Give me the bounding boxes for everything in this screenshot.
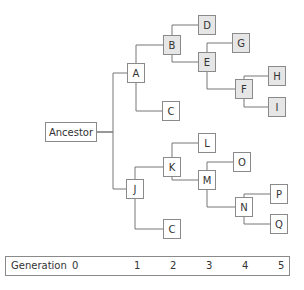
generation-axis: Generation 0 1 2 3 4 5 (5, 256, 290, 276)
node-c1: C (162, 101, 180, 121)
node-n: N (235, 197, 253, 217)
node-l: L (198, 133, 216, 153)
edge-e-g (207, 43, 232, 52)
node-m: M (198, 170, 216, 190)
node-f: F (235, 79, 253, 99)
node-o: O (233, 152, 251, 172)
generation-tick-0: 0 (72, 260, 78, 271)
node-d: D (198, 15, 216, 35)
edge-f-i (244, 99, 268, 107)
node-e: E (198, 52, 216, 72)
edge-ancestor-a (97, 73, 127, 132)
node-h: H (268, 66, 286, 86)
generation-axis-title: Generation (11, 260, 67, 271)
edge-b-d (172, 25, 198, 35)
node-g: G (232, 33, 250, 53)
generation-tick-5: 5 (278, 260, 284, 271)
edge-e-f (207, 72, 235, 89)
generation-tick-4: 4 (242, 260, 248, 271)
edge-n-q (244, 217, 270, 224)
edge-j-c2 (135, 199, 163, 229)
node-j: J (126, 179, 144, 199)
node-b: B (163, 35, 181, 55)
tree-connectors (0, 0, 304, 290)
edge-m-n (207, 190, 235, 207)
node-i: I (268, 97, 286, 117)
node-p: P (270, 184, 288, 204)
generation-tick-2: 2 (170, 260, 176, 271)
node-a: A (127, 63, 145, 83)
edge-a-b (136, 45, 163, 63)
edge-a-c1 (136, 83, 162, 111)
edge-k-l (172, 143, 198, 157)
node-ancestor: Ancestor (45, 122, 97, 142)
generation-tick-1: 1 (134, 260, 140, 271)
edge-m-o (207, 162, 233, 170)
node-k: K (163, 157, 181, 177)
edge-b-e (172, 55, 198, 62)
node-c2: C (163, 219, 181, 239)
generation-tick-3: 3 (206, 260, 212, 271)
edge-k-m (172, 177, 198, 180)
node-q: Q (270, 214, 288, 234)
edge-ancestor-j (97, 132, 126, 189)
edge-j-k (135, 167, 163, 179)
